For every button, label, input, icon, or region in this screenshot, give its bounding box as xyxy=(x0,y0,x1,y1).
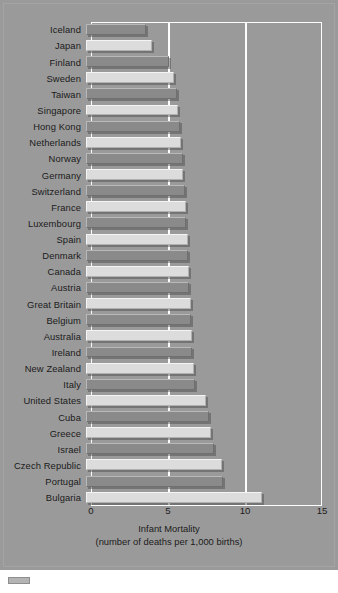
bar-row: Cuba xyxy=(0,409,338,425)
category-label: Greece xyxy=(0,429,86,438)
bar-row: Switzerland xyxy=(0,183,338,199)
category-label: Finland xyxy=(0,58,86,67)
bar xyxy=(86,121,180,132)
category-label: Czech Republic xyxy=(0,461,86,470)
bar xyxy=(86,40,152,51)
bar-track xyxy=(86,54,338,71)
bar xyxy=(86,201,186,212)
legend-swatch-icon xyxy=(8,577,30,584)
bar xyxy=(86,56,169,67)
bar-row: Israel xyxy=(0,441,338,457)
bar xyxy=(86,330,192,341)
bar-track xyxy=(86,38,338,55)
x-tick-label: 0 xyxy=(88,506,93,516)
bar-track xyxy=(86,312,338,329)
bar-row: Ireland xyxy=(0,345,338,361)
bar-row: United States xyxy=(0,393,338,409)
bar xyxy=(86,363,194,374)
bar xyxy=(86,234,188,245)
bar-track xyxy=(86,248,338,265)
bar xyxy=(86,169,183,180)
category-label: United States xyxy=(0,396,86,405)
bar-track xyxy=(86,425,338,442)
bar xyxy=(86,427,211,438)
bar xyxy=(86,411,209,422)
category-label: Portugal xyxy=(0,477,86,486)
bar-track xyxy=(86,344,338,361)
x-axis-label: Infant Mortality (number of deaths per 1… xyxy=(0,523,338,548)
bar-row: Denmark xyxy=(0,248,338,264)
bar-row: Great Britain xyxy=(0,296,338,312)
bar-row: Japan xyxy=(0,38,338,54)
bar-track xyxy=(86,280,338,297)
x-axis-label-line2: (number of deaths per 1,000 births) xyxy=(0,536,338,549)
category-label: Israel xyxy=(0,445,86,454)
bar-track xyxy=(86,86,338,103)
bar-row: Sweden xyxy=(0,70,338,86)
bar-track xyxy=(86,135,338,152)
bar-track xyxy=(86,361,338,378)
category-label: Ireland xyxy=(0,348,86,357)
category-label: Sweden xyxy=(0,74,86,83)
bar-rows: IcelandJapanFinlandSwedenTaiwanSingapore… xyxy=(0,22,338,506)
bar-row: Belgium xyxy=(0,312,338,328)
bar-track xyxy=(86,457,338,474)
bar-row: Netherlands xyxy=(0,135,338,151)
bar xyxy=(86,24,146,35)
bar-row: Australia xyxy=(0,329,338,345)
bar xyxy=(86,492,262,503)
bar-row: Iceland xyxy=(0,22,338,38)
category-label: Japan xyxy=(0,41,86,50)
category-label: Austria xyxy=(0,283,86,292)
bar xyxy=(86,379,195,390)
x-tick-label: 15 xyxy=(317,506,328,516)
category-label: Hong Kong xyxy=(0,122,86,131)
bar xyxy=(86,153,183,164)
category-label: Bulgaria xyxy=(0,493,86,502)
x-axis-label-line1: Infant Mortality xyxy=(138,523,199,534)
bar-row: Bulgaria xyxy=(0,490,338,506)
bar-row: Singapore xyxy=(0,103,338,119)
category-label: Luxembourg xyxy=(0,219,86,228)
bar-track xyxy=(86,231,338,248)
category-label: France xyxy=(0,203,86,212)
bar-track xyxy=(86,70,338,87)
category-label: Denmark xyxy=(0,251,86,260)
bar-row: Czech Republic xyxy=(0,458,338,474)
chart-figure: IcelandJapanFinlandSwedenTaiwanSingapore… xyxy=(0,0,338,570)
x-tick-label: 10 xyxy=(240,506,251,516)
bar-row: France xyxy=(0,199,338,215)
bar-track xyxy=(86,328,338,345)
bar-row: Spain xyxy=(0,232,338,248)
bar xyxy=(86,298,191,309)
bar xyxy=(86,395,206,406)
category-label: Singapore xyxy=(0,106,86,115)
bar-track xyxy=(86,377,338,394)
category-label: Canada xyxy=(0,267,86,276)
bar-row: Luxembourg xyxy=(0,216,338,232)
bar-row: New Zealand xyxy=(0,361,338,377)
category-label: Netherlands xyxy=(0,138,86,147)
bar-track xyxy=(86,183,338,200)
category-label: Norway xyxy=(0,154,86,163)
bar xyxy=(86,266,189,277)
bar-track xyxy=(86,151,338,168)
bar-row: Taiwan xyxy=(0,87,338,103)
category-label: Cuba xyxy=(0,413,86,422)
category-label: Belgium xyxy=(0,316,86,325)
bar xyxy=(86,137,181,148)
bar-row: Portugal xyxy=(0,474,338,490)
bar xyxy=(86,72,174,83)
category-label: Switzerland xyxy=(0,187,86,196)
bar xyxy=(86,250,188,261)
bar-track xyxy=(86,264,338,281)
bar xyxy=(86,185,185,196)
bar-row: Austria xyxy=(0,280,338,296)
bar xyxy=(86,282,189,293)
bar-track xyxy=(86,167,338,184)
category-label: Spain xyxy=(0,235,86,244)
bar-track xyxy=(86,441,338,458)
bar-track xyxy=(86,119,338,136)
bar xyxy=(86,217,186,228)
bar xyxy=(86,314,191,325)
